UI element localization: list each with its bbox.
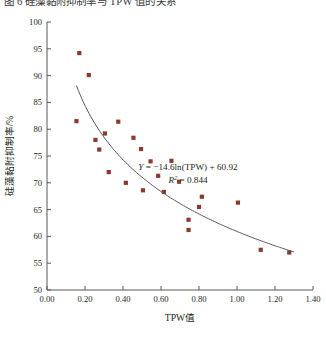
x-tick-label: 0.60 [153, 294, 168, 304]
data-point [124, 181, 128, 185]
y-tick-label: 95 [33, 44, 42, 54]
figure-container: 图 6 硅藻黏附抑制率与 TPW 值的关系 505560657075808590… [0, 0, 326, 338]
equation-annotation: Y = −14.6ln(TPW) + 60.92 R2 = 0.844 [138, 162, 238, 185]
y-axis-title: 硅藻黏附抑制率/% [4, 116, 15, 197]
chart-svg: 50556065707580859095100 0.000.200.400.60… [0, 7, 326, 338]
data-point [103, 131, 107, 135]
data-point [186, 228, 190, 232]
y-tick-label: 100 [29, 17, 42, 27]
y-tick-label: 80 [33, 124, 42, 134]
data-point [259, 248, 263, 252]
data-point [186, 218, 190, 222]
r-squared-line: R2 = 0.844 [167, 174, 208, 185]
y-tick-label: 70 [33, 178, 42, 188]
data-point [116, 120, 120, 124]
data-point [107, 170, 111, 174]
y-tick-label: 55 [33, 258, 42, 268]
data-point [74, 119, 78, 123]
y-tick-label: 90 [33, 71, 42, 81]
y-tick-label: 60 [33, 231, 42, 241]
data-point [236, 201, 240, 205]
data-point [139, 147, 143, 151]
data-point [97, 147, 101, 151]
clipped-caption-text: 图 6 硅藻黏附抑制率与 TPW 值的关系 [4, 0, 176, 7]
y-tick-label: 65 [33, 205, 42, 215]
data-point [87, 73, 91, 77]
x-tick-label: 0.20 [77, 294, 92, 304]
y-tick-label: 85 [33, 97, 42, 107]
x-tick-label: 1.00 [229, 294, 244, 304]
data-point [93, 138, 97, 142]
x-axis-title: TPW值 [165, 312, 195, 323]
x-tick-label: 1.20 [267, 294, 282, 304]
data-point [131, 136, 135, 140]
equation-line: Y = −14.6ln(TPW) + 60.92 [138, 162, 238, 172]
clipped-caption-strip: 图 6 硅藻黏附抑制率与 TPW 值的关系 [0, 0, 326, 7]
data-points-layer [74, 51, 291, 255]
data-point [156, 174, 160, 178]
x-tick-label: 0.00 [39, 294, 54, 304]
x-tick-label: 1.40 [305, 294, 320, 304]
y-tick-label: 75 [33, 151, 42, 161]
axes-group [47, 22, 313, 290]
data-point [197, 205, 201, 209]
x-tick-label: 0.80 [191, 294, 206, 304]
scatter-plot: 50556065707580859095100 0.000.200.400.60… [0, 7, 326, 338]
data-point [200, 195, 204, 199]
y-axis-ticks: 50556065707580859095100 [29, 17, 51, 295]
data-point [141, 188, 145, 192]
data-point [77, 51, 81, 55]
x-axis-ticks: 0.000.200.400.600.801.001.201.40 [39, 286, 320, 304]
x-tick-label: 0.40 [115, 294, 130, 304]
